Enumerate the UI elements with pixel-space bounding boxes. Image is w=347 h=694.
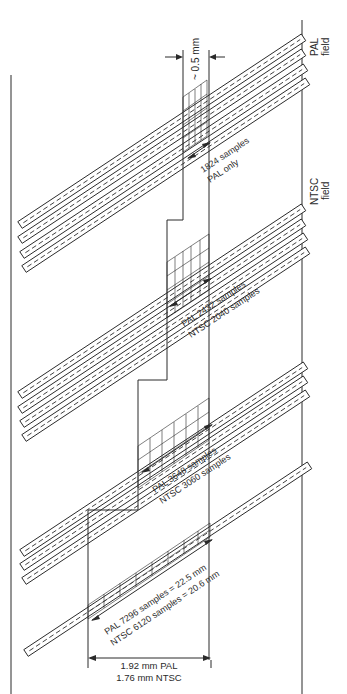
pal-field-label-1: PAL — [309, 37, 320, 56]
width-label-2: 1.76 mm NTSC — [116, 672, 182, 683]
seg4-label-2: NTSC 6120 samples = 20.6 mm — [109, 569, 222, 648]
ntsc-field-label-1: NTSC — [309, 178, 320, 205]
helical-track-diagram: ~ 0.5 mm PAL field NTSC field 1824 sampl… — [0, 0, 347, 694]
pitch-label: ~ 0.5 mm — [190, 38, 201, 80]
seg4-dim — [91, 539, 213, 621]
width-label-1: 1.92 mm PAL — [121, 660, 178, 671]
seg4-label-1: PAL 7296 samples = 22.5 mm — [103, 562, 208, 636]
ntsc-field-label-2: field — [320, 182, 331, 200]
pal-field-label-2: field — [320, 38, 331, 56]
